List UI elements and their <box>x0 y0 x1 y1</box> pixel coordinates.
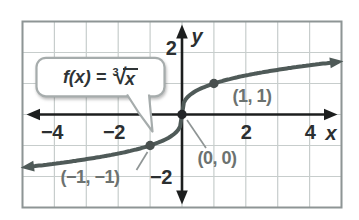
leader-line-origin <box>187 120 206 148</box>
data-point-0-0 <box>177 110 186 119</box>
y-axis-down-arrow-icon <box>176 191 188 205</box>
data-point-1-1 <box>209 79 218 88</box>
leader-line-neg1 <box>137 152 148 170</box>
plot-canvas <box>0 0 359 220</box>
callout-tail <box>127 95 153 132</box>
x-axis-right-arrow-icon <box>324 109 338 121</box>
callout-bubble <box>37 58 165 97</box>
x-axis-left-arrow-icon <box>27 109 41 121</box>
data-point--1--1 <box>145 141 154 150</box>
cube-root-graph-figure: −4 −2 2 4 x 2 −2 y (1, 1) (0, 0) (−1, −1… <box>0 0 359 220</box>
y-axis-up-arrow-icon <box>176 25 188 39</box>
